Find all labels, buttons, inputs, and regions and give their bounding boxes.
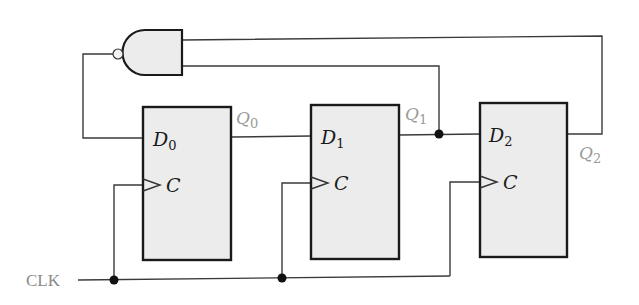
flip-flop-2: D2 C bbox=[480, 103, 567, 257]
ff2-q-label: Q2 bbox=[579, 143, 601, 166]
junction-q1-icon bbox=[435, 130, 444, 139]
nand-bubble-icon bbox=[113, 49, 123, 59]
clk-label: CLK bbox=[26, 271, 61, 290]
flip-flop-0: D0 C bbox=[143, 107, 231, 260]
flip-flop-1: D1 C bbox=[311, 105, 399, 259]
wire-q0-to-d1 bbox=[231, 136, 311, 137]
junction-clk-ff1-icon bbox=[278, 274, 287, 283]
ff0-clock-label: C bbox=[166, 174, 181, 196]
wire-clk-ff0 bbox=[114, 185, 143, 280]
ff1-q-label: Q1 bbox=[405, 104, 427, 127]
wire-clk-ff1 bbox=[282, 183, 311, 278]
ff0-q-label: Q0 bbox=[236, 108, 258, 131]
ff1-clock-label: C bbox=[334, 172, 349, 194]
nand-gate bbox=[123, 30, 182, 75]
junction-clk-ff0-icon bbox=[110, 276, 119, 285]
ff2-clock-label: C bbox=[503, 171, 518, 193]
wire-clk-main bbox=[78, 276, 450, 280]
circuit-diagram: D0 C Q0 D1 C Q1 D2 C Q2 CLK bbox=[0, 0, 639, 305]
wire-clk-ff2 bbox=[450, 182, 480, 276]
